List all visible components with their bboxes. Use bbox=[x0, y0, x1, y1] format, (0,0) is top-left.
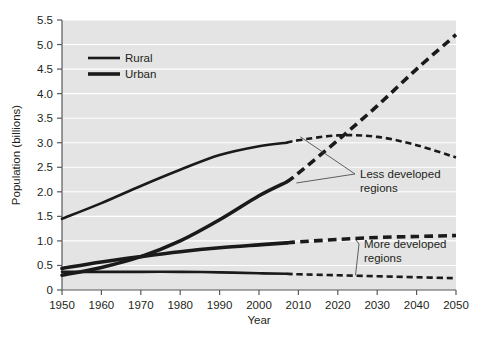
annotation-more-developed-line1: More developed bbox=[364, 238, 446, 250]
x-tick-label: 2000 bbox=[246, 299, 272, 311]
x-tick-label: 1950 bbox=[49, 299, 75, 311]
x-tick-label: 2050 bbox=[443, 299, 469, 311]
legend-label-urban: Urban bbox=[125, 68, 156, 80]
legend-label-rural: Rural bbox=[125, 52, 152, 64]
y-tick-label: 0.5 bbox=[37, 259, 53, 271]
x-tick-label: 1960 bbox=[89, 299, 115, 311]
annotation-less-developed-line2: regions bbox=[360, 182, 398, 194]
annotation-more-developed-line2: regions bbox=[364, 252, 402, 264]
x-tick-label: 2010 bbox=[286, 299, 312, 311]
y-tick-label: 4.0 bbox=[37, 88, 53, 100]
population-line-chart: 00.51.01.52.02.53.03.54.04.55.05.5 19501… bbox=[0, 0, 482, 339]
y-tick-label: 1.0 bbox=[37, 235, 53, 247]
x-tick-label: 2040 bbox=[404, 299, 430, 311]
y-axis-title: Population (billions) bbox=[10, 105, 22, 206]
y-tick-label: 3.0 bbox=[37, 137, 53, 149]
chart-screenshot: 00.51.01.52.02.53.03.54.04.55.05.5 19501… bbox=[0, 0, 482, 339]
x-tick-label: 2030 bbox=[364, 299, 390, 311]
y-tick-label: 5.5 bbox=[37, 14, 53, 26]
annotation-less-developed-line1: Less developed bbox=[360, 168, 441, 180]
y-tick-label: 2.0 bbox=[37, 186, 53, 198]
y-tick-label: 5.0 bbox=[37, 39, 53, 51]
x-tick-label: 2020 bbox=[325, 299, 351, 311]
x-tick-label: 1970 bbox=[128, 299, 154, 311]
y-tick-label: 4.5 bbox=[37, 63, 53, 75]
y-tick-label: 0 bbox=[47, 284, 53, 296]
x-tick-label: 1980 bbox=[167, 299, 193, 311]
x-tick-label: 1990 bbox=[207, 299, 233, 311]
y-tick-label: 2.5 bbox=[37, 161, 53, 173]
x-axis-title: Year bbox=[247, 314, 270, 326]
y-tick-label: 1.5 bbox=[37, 210, 53, 222]
y-tick-label: 3.5 bbox=[37, 112, 53, 124]
